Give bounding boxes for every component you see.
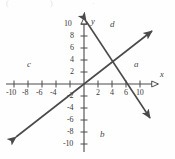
y-tick-6: 6 [70,44,74,52]
y-tick-10: 10 [64,20,72,28]
y-tick-2: 2 [70,68,74,76]
x-axis-label: x [160,70,164,78]
figure-canvas: ( ) · [0,0,175,159]
x-tick-n4: -4 [50,89,56,97]
y-tick-8: 8 [70,32,74,40]
graph-svg [0,0,175,159]
curve-label-d: d [110,20,115,29]
x-tick-4: 4 [110,89,114,97]
y-tick-n6: -6 [67,116,73,124]
y-tick-n8: -8 [67,128,73,136]
y-tick-n2: -2 [67,92,73,100]
descending-line [86,21,150,118]
curve-label-c: c [27,60,31,69]
x-tick-2: 2 [96,89,100,97]
curve-label-b: b [100,130,105,139]
x-tick-10: 10 [136,89,144,97]
y-tick-4: 4 [70,56,74,64]
y-tick-n10: -10 [63,140,73,148]
x-tick-n6: -6 [36,89,42,97]
y-tick-n4: -4 [67,104,73,112]
curve-label-a: a [134,60,139,69]
x-tick-n8: -8 [22,89,28,97]
y-axis-label: y [91,17,95,25]
x-tick-n10: -10 [6,89,16,97]
x-tick-6: 6 [124,89,128,97]
